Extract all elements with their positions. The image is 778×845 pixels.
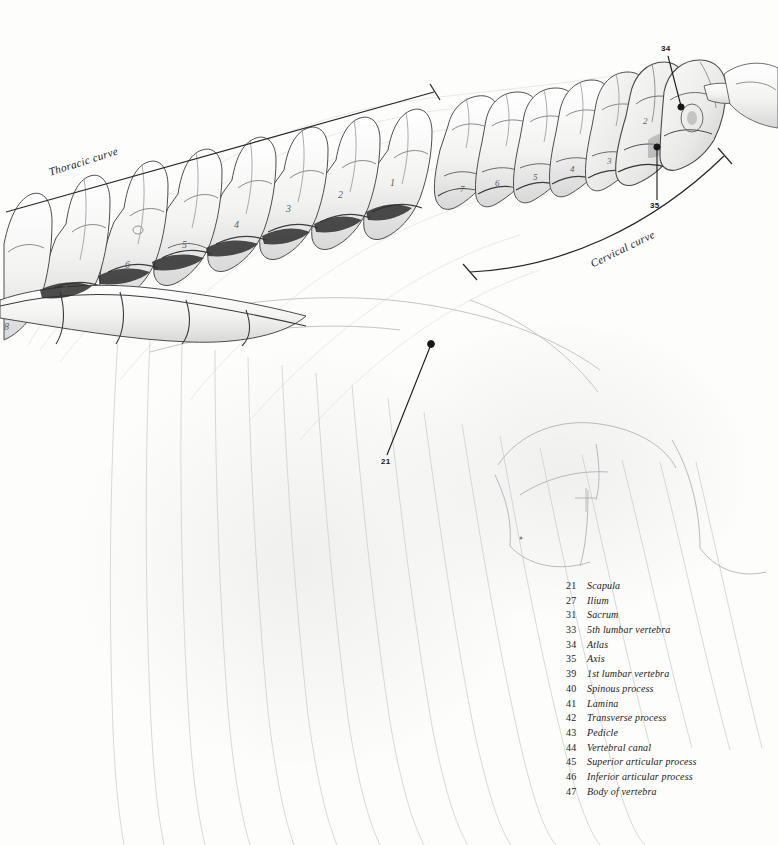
legend-number: 39 xyxy=(566,668,587,679)
svg-text:5: 5 xyxy=(533,172,538,182)
legend-row: 33 5th lumbar vertebra xyxy=(566,624,772,639)
legend-number: 41 xyxy=(566,698,587,709)
legend-number: 21 xyxy=(566,580,587,591)
legend-row: 34 Atlas xyxy=(566,639,772,654)
thoracic-vertebrae: 8 7 6 5 4 3 2 1 xyxy=(0,109,432,346)
cervical-vertebrae: 7 6 5 4 3 2 xyxy=(434,60,778,209)
legend-number: 42 xyxy=(566,712,587,723)
callout-number-21: 21 xyxy=(381,457,390,466)
legend-term: Sacrum xyxy=(587,609,618,620)
legend-row: 21 Scapula xyxy=(566,580,772,595)
legend-term: Transverse process xyxy=(587,712,666,723)
legend-row: 41 Lamina xyxy=(566,698,772,713)
callout-number-34: 34 xyxy=(661,44,670,53)
svg-text:6: 6 xyxy=(495,178,500,188)
legend-term: Scapula xyxy=(587,580,620,591)
legend-row: 47 Body of vertebra xyxy=(566,786,772,801)
svg-text:4: 4 xyxy=(570,164,575,174)
svg-text:4: 4 xyxy=(234,219,239,230)
legend-number: 44 xyxy=(566,742,587,753)
legend-term: 5th lumbar vertebra xyxy=(587,624,670,635)
svg-text:2: 2 xyxy=(643,116,648,126)
legend-number: 47 xyxy=(566,786,587,797)
legend-term: Inferior articular process xyxy=(587,771,693,782)
legend-row: 42 Transverse process xyxy=(566,712,772,727)
occiput-fragment xyxy=(724,63,778,128)
legend-number: 35 xyxy=(566,653,587,664)
legend: 21 Scapula 27 Ilium 31 Sacrum 33 5th lum… xyxy=(566,580,772,800)
legend-number: 34 xyxy=(566,639,587,650)
legend-term: Pedicle xyxy=(587,727,618,738)
legend-row: 31 Sacrum xyxy=(566,609,772,624)
legend-number: 46 xyxy=(566,771,587,782)
svg-text:8: 8 xyxy=(4,321,9,332)
legend-term: Axis xyxy=(587,653,605,664)
legend-row: 46 Inferior articular process xyxy=(566,771,772,786)
svg-text:7: 7 xyxy=(460,184,465,194)
legend-number: 40 xyxy=(566,683,587,694)
legend-row: 35 Axis xyxy=(566,653,772,668)
legend-row: 27 Ilium xyxy=(566,595,772,610)
legend-term: Ilium xyxy=(587,595,609,606)
legend-term: Vertebral canal xyxy=(587,742,651,753)
legend-row: 40 Spinous process xyxy=(566,683,772,698)
svg-text:2: 2 xyxy=(338,189,343,200)
svg-text:3: 3 xyxy=(606,156,612,166)
legend-term: Lamina xyxy=(587,698,618,709)
legend-term: Atlas xyxy=(587,639,608,650)
legend-number: 27 xyxy=(566,595,587,606)
legend-term: 1st lumbar vertebra xyxy=(587,668,669,679)
anatomical-plate: 7 6 5 4 3 2 xyxy=(0,0,778,845)
legend-number: 31 xyxy=(566,609,587,620)
legend-number: 43 xyxy=(566,727,587,738)
svg-text:3: 3 xyxy=(285,203,291,214)
legend-row: 45 Superior articular process xyxy=(566,756,772,771)
legend-row: 39 1st lumbar vertebra xyxy=(566,668,772,683)
legend-term: Body of vertebra xyxy=(587,786,657,797)
legend-term: Spinous process xyxy=(587,683,654,694)
legend-row: 43 Pedicle xyxy=(566,727,772,742)
legend-number: 45 xyxy=(566,756,587,767)
svg-text:1: 1 xyxy=(390,177,395,188)
legend-number: 33 xyxy=(566,624,587,635)
legend-row: 44 Vertebral canal xyxy=(566,742,772,757)
legend-term: Superior articular process xyxy=(587,756,697,767)
svg-text:5: 5 xyxy=(182,239,187,250)
svg-text:6: 6 xyxy=(125,259,130,270)
callout-number-35: 35 xyxy=(650,201,659,210)
